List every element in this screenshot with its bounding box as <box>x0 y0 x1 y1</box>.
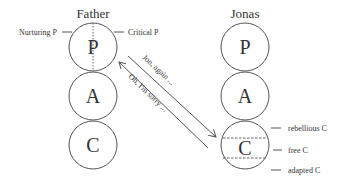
father-title: Father <box>76 6 110 21</box>
father-parent-letter: P <box>87 36 98 58</box>
jonas-group: Jonas P A C rebellious C free C adapted … <box>221 6 327 175</box>
critical-p-label: Critical P <box>128 28 159 37</box>
jonas-title: Jonas <box>231 6 260 21</box>
jonas-adult-letter: A <box>238 85 253 107</box>
jonas-parent-letter: P <box>239 36 250 58</box>
nurturing-p-label: Nurturing P <box>19 28 58 37</box>
jonas-child-letter: C <box>238 137 251 159</box>
rebellious-c-label: rebellious C <box>288 124 327 133</box>
transaction-arrow-father-to-jonas <box>128 56 216 137</box>
father-child-letter: C <box>86 134 99 156</box>
free-c-label: free C <box>288 146 308 155</box>
father-adult-letter: A <box>86 85 101 107</box>
adapted-c-label: adapted C <box>288 166 320 175</box>
transactions-group: Jon, again ... Oh, I'm sorry ... <box>119 53 216 148</box>
transactional-analysis-diagram: Father P A C Nurturing P Critical P Jona… <box>0 0 341 187</box>
transaction-label-jon-again: Jon, again ... <box>141 53 177 87</box>
